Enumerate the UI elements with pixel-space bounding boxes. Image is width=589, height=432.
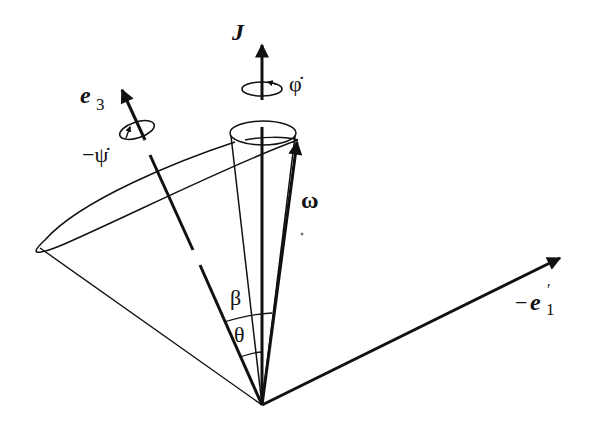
J-label: J bbox=[231, 19, 245, 45]
svg-text:1: 1 bbox=[546, 300, 555, 319]
e1-prime-vector bbox=[262, 258, 560, 405]
psi-dot-label: −ψ̇ bbox=[82, 142, 110, 167]
precession-diagram: J φ̇ e 3 −ψ̇ ω β θ − e 1 ′ bbox=[0, 0, 589, 432]
svg-text:e: e bbox=[80, 82, 91, 108]
svg-text:′: ′ bbox=[547, 281, 551, 298]
omega-label: ω bbox=[301, 187, 319, 213]
omega-vector bbox=[262, 142, 297, 405]
theta-label: θ bbox=[234, 322, 245, 347]
space-cone-left-generator bbox=[231, 136, 262, 405]
beta-label: β bbox=[230, 285, 241, 310]
svg-text:3: 3 bbox=[96, 95, 105, 114]
phi-dot-label: φ̇ bbox=[289, 71, 304, 96]
body-cone bbox=[36, 137, 298, 405]
e1-prime-label: − e 1 ′ bbox=[515, 281, 555, 319]
stray-dot bbox=[301, 233, 304, 236]
svg-text:e: e bbox=[530, 289, 541, 315]
e3-axis bbox=[117, 90, 262, 405]
J-axis bbox=[242, 45, 282, 405]
svg-text:−: − bbox=[515, 290, 527, 315]
beta-arc bbox=[224, 313, 272, 322]
e3-label: e 3 bbox=[80, 82, 105, 114]
theta-arc bbox=[240, 352, 262, 357]
